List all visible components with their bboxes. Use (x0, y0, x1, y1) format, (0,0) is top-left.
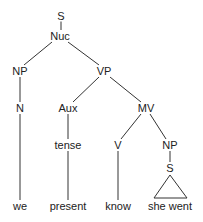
leaf-we: we (12, 201, 28, 212)
edge-mv-np (150, 114, 166, 139)
edge-vp-mv (110, 77, 141, 102)
syntax-tree-diagram: S Nuc NP VP N Aux MV tense V NP S we pre… (0, 0, 203, 222)
node-n: N (15, 103, 25, 114)
edge-nuc-vp (68, 42, 99, 65)
node-np-object: NP (161, 140, 178, 151)
leaf-present: present (49, 201, 88, 212)
tree-edges (0, 0, 203, 222)
edge-mv-v (121, 114, 141, 139)
node-v: V (113, 140, 122, 151)
leaf-know: know (104, 201, 132, 212)
node-s-embedded: S (165, 163, 174, 174)
leaf-she-went: she went (147, 201, 193, 212)
node-s-root: S (56, 11, 65, 22)
node-aux: Aux (58, 103, 79, 114)
node-mv: MV (137, 103, 156, 114)
edge-nuc-np (24, 42, 52, 65)
node-nuc: Nuc (49, 31, 71, 42)
node-np-subject: NP (11, 66, 28, 77)
node-vp: VP (96, 66, 113, 77)
triangle-abbreviation (154, 175, 187, 198)
edge-vp-aux (73, 77, 99, 102)
node-tense: tense (54, 140, 83, 151)
